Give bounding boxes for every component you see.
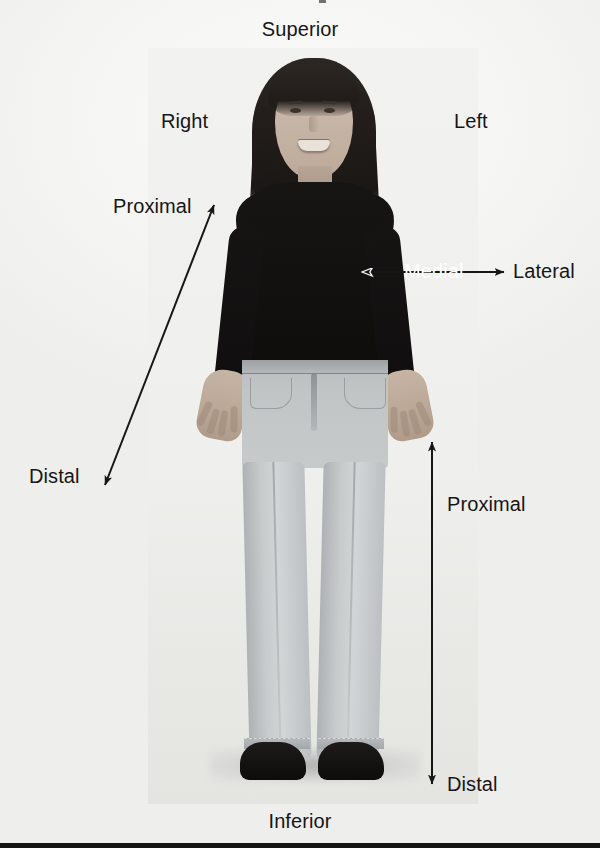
- label-right: Right: [161, 111, 208, 131]
- label-inferior: Inferior: [0, 811, 600, 831]
- subject-photograph: [148, 48, 478, 804]
- cropped-text-sliver: [319, 0, 326, 3]
- nose: [309, 116, 318, 132]
- eye-right: [324, 108, 335, 113]
- jeans-pocket-right: [344, 378, 386, 409]
- label-proximal-leg: Proximal: [447, 494, 526, 514]
- jeans-leg-left: [242, 462, 311, 762]
- shoe-left: [240, 742, 306, 780]
- jeans-leg-right: [316, 462, 385, 762]
- label-distal-arm: Distal: [29, 466, 80, 486]
- below-rule-margin: [0, 848, 600, 860]
- label-medial: Medial: [404, 261, 464, 281]
- anatomical-directions-figure: Superior Right Left Proximal Distal Medi…: [0, 0, 600, 860]
- shoe-right: [318, 742, 384, 780]
- jeans-pocket-left: [250, 378, 292, 409]
- eye-left: [290, 108, 301, 113]
- label-distal-leg: Distal: [447, 774, 498, 794]
- jeans-waistband: [242, 360, 388, 374]
- mouth: [298, 140, 330, 151]
- label-lateral: Lateral: [513, 261, 575, 281]
- label-proximal-arm: Proximal: [113, 196, 192, 216]
- torso-dark-top: [244, 182, 385, 368]
- jeans-fly: [311, 373, 317, 431]
- label-superior: Superior: [0, 19, 600, 39]
- label-left: Left: [454, 111, 488, 131]
